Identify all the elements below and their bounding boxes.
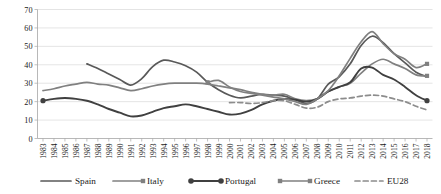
legend-item-portugal[interactable]: Portugal xyxy=(188,176,256,186)
x-tick-label: 2012 xyxy=(357,143,366,158)
x-tick-label: 2015 xyxy=(390,143,399,158)
series-marker-end-greece xyxy=(425,62,429,66)
series-marker-end-portugal xyxy=(424,98,429,103)
legend-marker-left xyxy=(278,179,282,183)
legend-item-eu28[interactable]: EU28 xyxy=(355,176,409,186)
legend-item-italy[interactable]: Italy xyxy=(113,176,164,186)
legend-marker-right xyxy=(218,178,224,184)
y-tick-label: 70 xyxy=(24,6,32,15)
chart-canvas: 010203040506070 198319841985198619871988… xyxy=(0,0,441,194)
legend-marker-right xyxy=(308,179,312,183)
x-tick-label: 2001 xyxy=(236,143,245,158)
series-italy xyxy=(43,59,429,100)
x-tick-label: 1999 xyxy=(215,143,224,158)
x-tick-label: 1993 xyxy=(149,143,158,158)
series-marker-end-italy xyxy=(425,74,429,78)
y-tick-label: 50 xyxy=(24,42,32,51)
y-tick-label: 60 xyxy=(24,24,32,33)
x-tick-label: 2010 xyxy=(335,143,344,158)
x-tick-label: 1985 xyxy=(61,143,70,158)
x-tick-label: 1998 xyxy=(204,143,213,158)
legend-marker-left xyxy=(188,178,194,184)
x-tick-label: 2016 xyxy=(401,143,410,158)
x-tick-label: 1991 xyxy=(127,143,136,158)
y-tick-label: 30 xyxy=(24,79,32,88)
x-tick-label: 1994 xyxy=(160,143,169,158)
legend-item-greece[interactable]: Greece xyxy=(278,176,340,186)
series-portugal xyxy=(40,67,429,117)
x-tick-label: 2014 xyxy=(379,143,388,158)
x-tick-label: 2002 xyxy=(247,143,256,158)
x-axis-labels: 1983198419851986198719881989199019911992… xyxy=(39,139,432,159)
x-tick-label: 2008 xyxy=(313,143,322,158)
x-tick-label: 2006 xyxy=(291,143,300,158)
x-tick-label: 1995 xyxy=(171,143,180,158)
x-tick-label: 1990 xyxy=(116,143,125,158)
x-tick-label: 1989 xyxy=(105,143,114,158)
series-marker-start-greece xyxy=(205,80,209,84)
legend: SpainItalyPortugalGreeceEU28 xyxy=(41,176,409,186)
x-tick-label: 1992 xyxy=(138,143,147,158)
x-tick-label: 2009 xyxy=(324,143,333,158)
legend-label-eu28: EU28 xyxy=(387,176,409,186)
x-tick-label: 2003 xyxy=(258,143,267,158)
y-tick-label: 20 xyxy=(24,98,32,107)
legend-label-spain: Spain xyxy=(75,176,96,186)
x-tick-label: 1986 xyxy=(72,143,81,158)
legend-item-spain[interactable]: Spain xyxy=(41,176,96,186)
series-marker-start-portugal xyxy=(40,98,45,103)
x-tick-label: 1997 xyxy=(193,143,202,158)
series-line-portugal xyxy=(43,67,427,117)
x-tick-label: 2004 xyxy=(269,143,278,158)
series-eu28 xyxy=(230,95,428,110)
y-tick-label: 10 xyxy=(24,116,32,125)
legend-label-portugal: Portugal xyxy=(225,176,257,186)
y-axis-labels: 010203040506070 xyxy=(24,6,37,144)
series-layer xyxy=(40,32,429,117)
series-line-greece xyxy=(208,32,427,105)
y-tick-label: 0 xyxy=(28,135,32,144)
legend-label-greece: Greece xyxy=(314,176,340,186)
series-line-eu28 xyxy=(230,95,428,110)
x-tick-label: 2000 xyxy=(226,143,235,158)
x-tick-label: 2007 xyxy=(302,143,311,158)
legend-label-italy: Italy xyxy=(147,176,164,186)
x-tick-label: 2011 xyxy=(346,143,355,158)
line-chart: 010203040506070 198319841985198619871988… xyxy=(0,0,441,194)
x-tick-label: 2018 xyxy=(423,143,432,158)
series-greece xyxy=(205,32,429,105)
legend-marker-right xyxy=(141,179,145,183)
x-tick-label: 1987 xyxy=(83,143,92,158)
x-tick-label: 2013 xyxy=(368,143,377,158)
x-tick-label: 1996 xyxy=(182,143,191,158)
x-tick-label: 1984 xyxy=(50,143,59,158)
y-tick-label: 40 xyxy=(24,61,32,70)
x-tick-label: 1983 xyxy=(39,143,48,158)
x-tick-label: 2005 xyxy=(280,143,289,158)
x-tick-label: 1988 xyxy=(94,143,103,158)
axes-layer xyxy=(38,10,433,139)
x-tick-label: 2017 xyxy=(412,143,421,158)
